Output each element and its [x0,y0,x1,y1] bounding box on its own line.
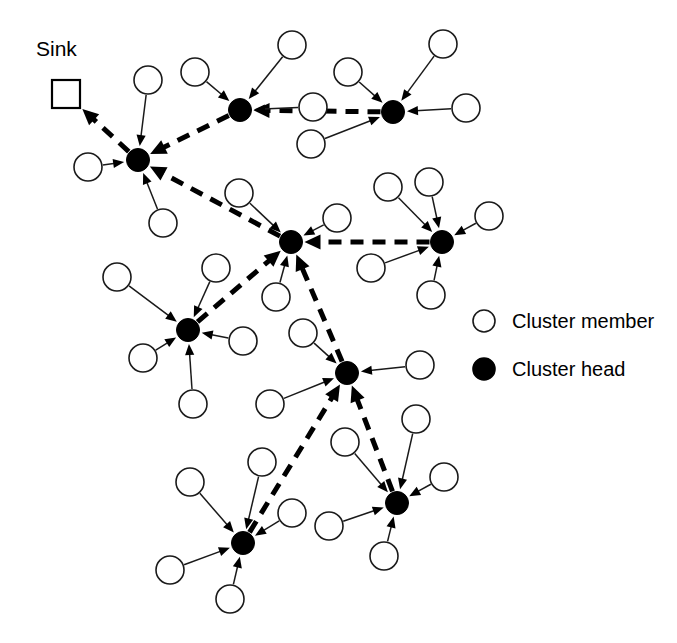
backbone-link [92,118,128,151]
cluster-head-node [127,149,150,172]
member-link [388,525,392,541]
cluster-member-nodes-layer [74,30,503,613]
cluster-member-node [248,448,276,476]
backbone-link [162,116,228,149]
cluster-member-node [429,30,457,58]
member-link [141,95,146,137]
cluster-head-node [431,231,454,254]
cluster-member-node [331,428,359,456]
cluster-member-node [278,31,306,59]
member-arrowhead [409,487,421,496]
cluster-head-node [229,99,252,122]
member-link [197,282,209,310]
member-arrowhead [165,311,177,321]
cluster-member-node [475,202,503,230]
backbone-arrowhead [82,109,99,125]
member-link [399,198,427,226]
member-arrowhead [432,217,441,229]
member-arrowhead [113,159,125,168]
cluster-member-node [129,344,157,372]
sink-label: Sink [36,37,77,60]
member-link [284,382,326,399]
member-link [254,57,282,92]
member-arrowhead [398,478,407,490]
member-arrowhead [387,517,396,529]
member-link [417,484,431,492]
cluster-member-node [299,93,327,121]
cluster-member-node [134,66,162,94]
member-link [416,109,451,111]
legend: Cluster memberCluster head [473,310,655,380]
member-arrowhead [432,256,441,268]
legend-label: Cluster member [512,310,655,332]
cluster-head-node [280,231,303,254]
cluster-head-node [232,532,255,555]
member-arrowhead [255,526,267,536]
member-link [190,353,192,389]
member-link [156,342,169,350]
member-link [325,120,372,138]
member-arrowhead [137,135,146,146]
cluster-member-node [357,254,385,282]
member-link [434,264,437,280]
sink-node [52,80,80,108]
cluster-member-node [225,179,253,207]
cluster-member-node [406,351,434,379]
backbone-arrowhead [150,166,168,180]
cluster-member-node [262,283,290,311]
member-link [210,334,228,338]
network-topology-diagram: Sink Cluster memberCluster head [0,0,677,643]
legend-label: Cluster head [512,358,625,380]
member-arrowhead [143,173,152,185]
cluster-member-node [74,153,102,181]
backbone-arrowhead [305,235,321,250]
sink-node-group: Sink [36,37,80,108]
member-link [385,250,421,263]
member-arrowhead [218,547,230,556]
member-arrowhead [185,344,194,355]
backbone-link [162,173,280,236]
member-link [314,343,330,358]
cluster-member-node [402,405,430,433]
cluster-member-node [417,281,445,309]
member-link [233,565,237,584]
member-link [184,551,222,565]
cluster-member-node [149,209,177,237]
member-link [432,197,437,220]
member-link [280,264,285,283]
backbone-link [302,267,342,362]
cluster-head-node [382,101,405,124]
member-link [370,367,405,371]
member-arrowhead [249,88,259,99]
cluster-head-node [336,362,359,385]
member-arrowhead [417,246,429,255]
cluster-member-node [315,512,343,540]
member-arrowhead [368,117,380,126]
member-arrowhead [164,337,176,347]
legend-marker-filled-circle [473,358,495,380]
cluster-member-node [374,173,402,201]
cluster-member-node [297,130,325,158]
member-link [407,56,435,94]
member-link [146,181,157,209]
member-link [355,453,382,485]
cluster-member-node [156,556,184,584]
cluster-head-node [177,319,200,342]
cluster-member-node [176,468,204,496]
cluster-member-node [452,94,480,122]
member-link [402,434,413,481]
legend-marker-open-circle [473,310,495,332]
member-arrowhead [280,256,289,268]
member-arrowhead [202,330,214,339]
cluster-member-node [415,168,443,196]
member-arrowhead [401,89,411,101]
cluster-member-node [202,254,230,282]
member-link [129,286,170,316]
cluster-member-node [334,58,362,86]
cluster-member-node [370,542,398,570]
cluster-member-node [103,263,131,291]
member-link [248,477,258,521]
member-arrowhead [407,106,418,115]
cluster-member-node [181,58,209,86]
cluster-member-node [229,327,257,355]
